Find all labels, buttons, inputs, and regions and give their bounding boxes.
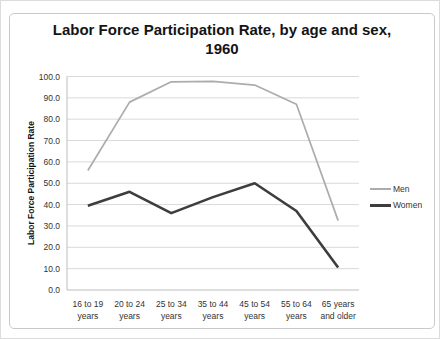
plot-area [1, 1, 440, 339]
y-tick-label: 0.0 [26, 285, 60, 295]
legend: MenWomen [370, 181, 422, 213]
legend-line-sample [370, 204, 391, 207]
chart-screenshot: { "chart": { "title_lines": ["Labor Forc… [0, 0, 440, 339]
y-tick-label: 100.0 [26, 72, 60, 82]
series-line-men [88, 81, 338, 220]
legend-label: Women [393, 200, 422, 210]
y-tick-label: 40.0 [26, 200, 60, 210]
legend-label: Men [393, 184, 410, 194]
y-tick-label: 50.0 [26, 178, 60, 188]
series-line-women [88, 183, 338, 267]
y-tick-label: 70.0 [26, 136, 60, 146]
y-tick-label: 90.0 [26, 93, 60, 103]
legend-item-men: Men [370, 181, 422, 197]
y-tick-label: 30.0 [26, 221, 60, 231]
x-tick-label: 65 years and older [314, 298, 362, 322]
y-tick-label: 60.0 [26, 157, 60, 167]
y-tick-label: 10.0 [26, 264, 60, 274]
legend-item-women: Women [370, 197, 422, 213]
y-tick-label: 80.0 [26, 114, 60, 124]
legend-line-sample [370, 188, 391, 190]
y-tick-label: 20.0 [26, 242, 60, 252]
